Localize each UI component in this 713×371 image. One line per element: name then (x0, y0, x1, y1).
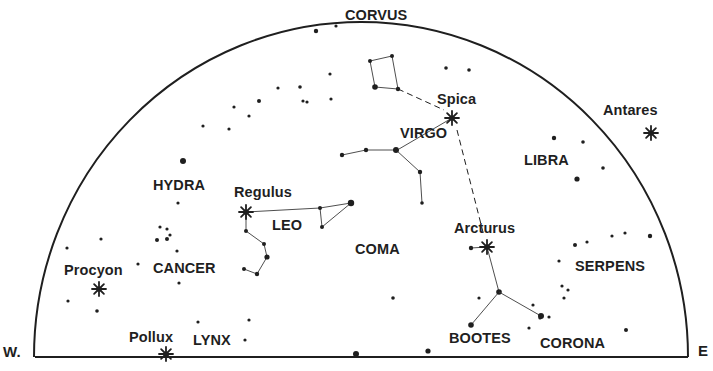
star-label-procyon: Procyon (64, 263, 123, 278)
star-dot (334, 24, 337, 27)
star-dot (467, 68, 471, 72)
star-dot (247, 318, 250, 321)
star-dot (301, 99, 304, 102)
star-dot (305, 100, 308, 103)
star-dot (136, 262, 139, 265)
star-dot (581, 140, 585, 144)
star-dot (242, 267, 246, 271)
star-dot (601, 166, 605, 170)
star-dot (66, 299, 69, 302)
star-dot (557, 259, 560, 262)
star-dot (165, 227, 168, 230)
star-dot (196, 320, 199, 323)
horizon-dome (34, 22, 688, 357)
star-dot (420, 201, 424, 205)
constellation-label-cancer: CANCER (153, 261, 216, 276)
east-direction-label: E (698, 343, 708, 358)
star-dot (538, 316, 541, 319)
star-label-antares: Antares (603, 103, 658, 118)
star-dot (177, 281, 180, 284)
star-dot (610, 234, 613, 237)
star-dot (257, 99, 261, 103)
star-dot (531, 303, 534, 306)
star-dot (262, 242, 266, 246)
star-dot (552, 136, 556, 140)
star-dot (547, 315, 550, 318)
star-dot (165, 237, 169, 241)
spica-star-icon (445, 111, 459, 125)
star-dot (328, 72, 331, 75)
star-dot (353, 351, 359, 357)
west-direction-label: W. (3, 344, 21, 359)
star-dot (340, 153, 344, 157)
constellation-label-hydra: HYDRA (153, 178, 205, 193)
star-dot (368, 59, 372, 63)
star-dot (477, 296, 480, 299)
star-dot (244, 229, 248, 233)
star-dot (158, 225, 161, 228)
constellation-label-corona: CORONA (540, 336, 605, 351)
star-dot (372, 84, 378, 90)
constellation-label-libra: LIBRA (524, 153, 569, 168)
star-dot (298, 85, 302, 89)
star-dot (573, 243, 577, 247)
star-dot (65, 246, 68, 249)
star-dot (155, 238, 159, 242)
star-dot (566, 288, 569, 291)
star-dot (175, 249, 178, 252)
star-dot (168, 233, 171, 236)
procyon-star-icon (92, 282, 106, 296)
star-dot (444, 66, 448, 70)
constellation-label-lynx: LYNX (193, 333, 231, 348)
star-dot (276, 86, 279, 89)
sky-chart (0, 0, 713, 371)
star-dot (201, 124, 204, 127)
virgo-figure-line (342, 150, 422, 203)
bootes-figure-line (471, 247, 499, 325)
constellation-label-bootes: BOOTES (449, 331, 511, 346)
star-dot (329, 97, 332, 100)
antares-star-icon (644, 126, 658, 140)
star-dot (232, 105, 235, 108)
star-label-arcturus: Arcturus (454, 221, 515, 236)
star-dot (247, 114, 250, 117)
star-dot (469, 246, 473, 250)
dashed-guide-lines (398, 89, 484, 236)
star-dot (527, 326, 530, 329)
star-dot (255, 272, 259, 276)
star-dot (318, 206, 322, 210)
star-dot (95, 309, 99, 313)
star-dot (623, 231, 626, 234)
star-dot (264, 254, 269, 259)
star-dot (624, 328, 628, 332)
constellation-label-virgo: VIRGO (400, 126, 447, 141)
star-dot (396, 87, 400, 91)
named-star-markers (92, 111, 658, 361)
star-dot (243, 338, 246, 341)
arcturus-star-icon (480, 240, 494, 254)
star-dot (320, 225, 324, 229)
constellation-label-serpens: SERPENS (575, 259, 645, 274)
constellation-label-coma: COMA (355, 242, 400, 257)
star-dot (349, 201, 353, 205)
star-dot (99, 237, 102, 240)
star-dot (418, 170, 422, 174)
star-dot (585, 240, 588, 243)
star-dot (562, 296, 565, 299)
star-dot (314, 29, 318, 33)
star-dot (176, 201, 179, 204)
star-dot (648, 234, 652, 238)
star-dot (560, 284, 563, 287)
star-dot (468, 322, 474, 328)
star-dot (574, 176, 579, 181)
star-dot (393, 147, 399, 153)
pollux-star-icon (159, 347, 173, 361)
star-dot (391, 296, 395, 300)
regulus-star-icon (239, 205, 253, 219)
bootes-arm-figure-line (499, 292, 541, 316)
corvus-figure-line (370, 56, 398, 89)
star-dot (425, 348, 430, 353)
star-label-regulus: Regulus (234, 185, 292, 200)
star-dot (227, 127, 230, 130)
star-dot (390, 54, 394, 58)
